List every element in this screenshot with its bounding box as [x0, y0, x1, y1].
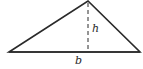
height-label: h [92, 23, 99, 34]
triangle-svg [0, 0, 143, 69]
base-label: b [75, 55, 82, 66]
triangle-diagram: h b [0, 0, 143, 69]
triangle-outline [9, 1, 140, 52]
